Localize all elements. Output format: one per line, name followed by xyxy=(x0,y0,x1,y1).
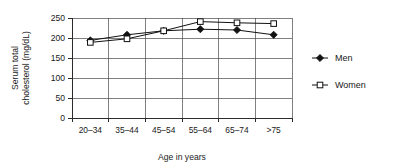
y-axis-tickmarks xyxy=(68,18,72,118)
legend-item-women: Women xyxy=(312,80,366,90)
chart-figure: 050100150200250 20–3435–4445–5455–6465–7… xyxy=(0,0,394,168)
legend-label-women: Women xyxy=(335,80,366,90)
chart-legend: MenWomen xyxy=(312,53,366,90)
y-axis-title: Serum total cholesterol (mg/dL) xyxy=(10,31,31,105)
y-tick-label-250: 250 xyxy=(51,13,66,23)
datapoint-women-2 xyxy=(161,28,167,34)
x-axis-tickmarks xyxy=(72,118,292,122)
datapoint-women-4 xyxy=(234,20,240,26)
y-tick-label-100: 100 xyxy=(51,73,66,83)
x-category-label-5: >75 xyxy=(267,125,282,135)
datapoint-women-1 xyxy=(124,36,130,42)
legend-label-men: Men xyxy=(335,53,353,63)
open-square-icon xyxy=(317,82,323,88)
y-tick-label-50: 50 xyxy=(55,93,65,103)
y-tick-label-0: 0 xyxy=(60,113,65,123)
serum-cholesterol-line-chart: 050100150200250 20–3435–4445–5455–6465–7… xyxy=(0,0,394,168)
x-category-label-4: 65–74 xyxy=(225,125,249,135)
x-category-label-3: 55–64 xyxy=(189,125,213,135)
x-axis-title: Age in years xyxy=(158,152,206,162)
datapoint-women-0 xyxy=(88,40,94,46)
legend-item-men: Men xyxy=(312,53,353,63)
x-category-label-0: 20–34 xyxy=(79,125,103,135)
x-category-label-2: 45–54 xyxy=(152,125,176,135)
filled-diamond-icon xyxy=(316,54,323,61)
y-axis-title-line-1: Serum total xyxy=(10,46,20,90)
y-tick-label-200: 200 xyxy=(51,33,66,43)
x-axis-category-labels: 20–3435–4445–5455–6465–74>75 xyxy=(79,125,281,135)
y-axis-title-line-2: cholesterol (mg/dL) xyxy=(21,31,31,105)
y-axis-tick-labels: 050100150200250 xyxy=(51,13,66,123)
datapoint-women-3 xyxy=(198,19,204,25)
y-tick-label-150: 150 xyxy=(51,53,66,63)
datapoint-women-5 xyxy=(271,21,277,27)
x-category-label-1: 35–44 xyxy=(115,125,139,135)
